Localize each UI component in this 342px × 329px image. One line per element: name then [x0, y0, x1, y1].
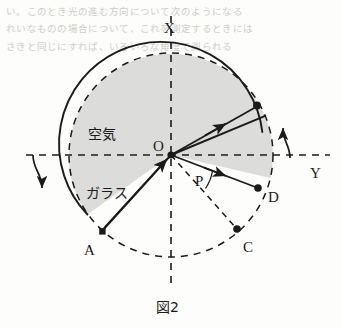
- label-point-c: C: [243, 240, 253, 255]
- angle-P-arc: [206, 172, 213, 189]
- rotation-arrow-left: [33, 155, 42, 188]
- label-point-o: O: [153, 139, 164, 154]
- figure-caption: 図2: [156, 300, 179, 314]
- figure-page: い。このとき光の進む方向について次のようになる れいなものの場合について、これを…: [0, 0, 342, 329]
- point-D-dot: [254, 184, 262, 192]
- point-A-dot: [99, 228, 105, 234]
- label-axis-y: Y: [310, 166, 321, 181]
- label-angle-p: P: [195, 174, 203, 189]
- label-point-a: A: [84, 243, 95, 258]
- optics-refraction-diagram: [0, 0, 342, 329]
- ray-OD-arrowhead: [204, 168, 226, 176]
- label-region-glass: ガラス: [86, 186, 128, 200]
- rotation-arrow-right: [283, 128, 290, 158]
- point-C-dot: [233, 225, 241, 233]
- point-O-dot: [167, 151, 174, 158]
- label-axis-x: X: [164, 21, 175, 36]
- refracted-tip-dot: [253, 102, 261, 110]
- label-region-air: 空気: [88, 127, 116, 141]
- label-point-d: D: [268, 190, 279, 205]
